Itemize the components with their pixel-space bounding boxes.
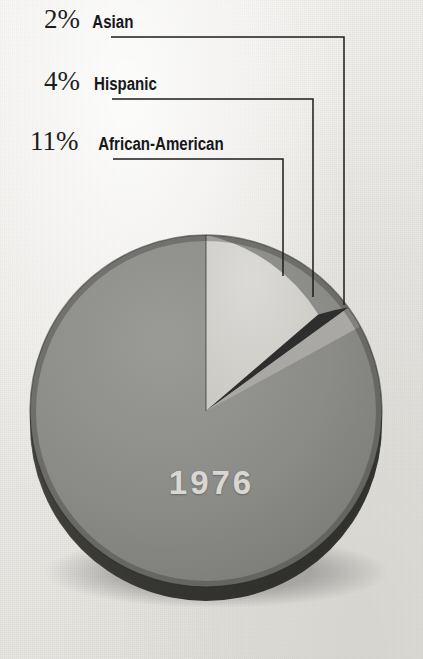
pie-graphic — [0, 0, 423, 659]
pie-chart-figure: 1976 2% Asian 4% Hispanic 11% African-Am… — [0, 0, 423, 659]
pie-svg — [0, 0, 423, 659]
pie-year-label: 1976 — [0, 464, 423, 502]
